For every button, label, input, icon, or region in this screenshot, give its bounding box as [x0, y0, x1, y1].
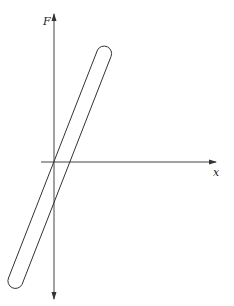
horizontal-axis-label: x: [213, 166, 220, 179]
vertical-axis-label: F: [42, 15, 51, 28]
hysteresis-loop: [8, 46, 112, 288]
force-displacement-diagram: F x: [0, 0, 234, 306]
